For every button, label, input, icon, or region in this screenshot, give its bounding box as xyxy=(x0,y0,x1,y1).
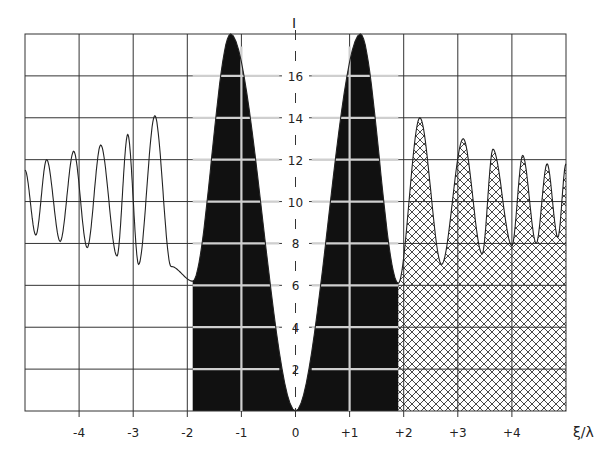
x-axis-label: ξ/λ xyxy=(573,424,594,440)
y-axis-label: I xyxy=(292,15,296,31)
y-tick-label: 10 xyxy=(288,196,303,210)
x-tick-label: +4 xyxy=(503,426,521,440)
y-tick-label: 8 xyxy=(292,237,300,251)
intensity-chart: -4-3-2-10+1+2+3+4 246810121416 ξ/λ I xyxy=(0,0,616,462)
x-tick-labels: -4-3-2-10+1+2+3+4 xyxy=(73,426,521,440)
y-tick-label: 16 xyxy=(288,70,303,84)
y-tick-label: 2 xyxy=(292,363,300,377)
x-tick-label: +2 xyxy=(395,426,413,440)
y-tick-label: 14 xyxy=(288,112,303,126)
x-tick-label: -4 xyxy=(73,426,85,440)
x-tick-label: -2 xyxy=(181,426,193,440)
x-tick-label: -1 xyxy=(235,426,247,440)
y-tick-label: 4 xyxy=(292,321,300,335)
x-tick-label: 0 xyxy=(292,426,300,440)
x-tick-label: +1 xyxy=(341,426,359,440)
crosshatch-region xyxy=(398,118,566,411)
x-tick-label: +3 xyxy=(449,426,467,440)
y-tick-label: 12 xyxy=(288,154,303,168)
y-tick-label: 6 xyxy=(292,279,300,293)
x-tick-label: -3 xyxy=(127,426,139,440)
